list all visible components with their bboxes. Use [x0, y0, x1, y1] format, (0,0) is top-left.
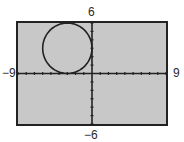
graph-plot: [18, 23, 166, 124]
ymax-label: 6: [88, 6, 95, 18]
xmax-label: 9: [173, 67, 180, 79]
xmin-label: −9: [2, 67, 16, 79]
ymin-label: −6: [84, 129, 98, 141]
circle-curve: [43, 23, 92, 74]
calculator-screen: [16, 21, 168, 126]
